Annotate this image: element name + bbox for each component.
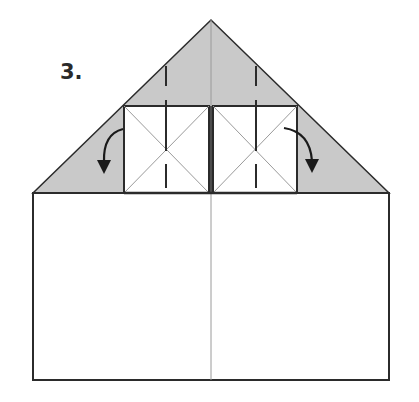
step-number-label: 3.	[60, 60, 83, 84]
